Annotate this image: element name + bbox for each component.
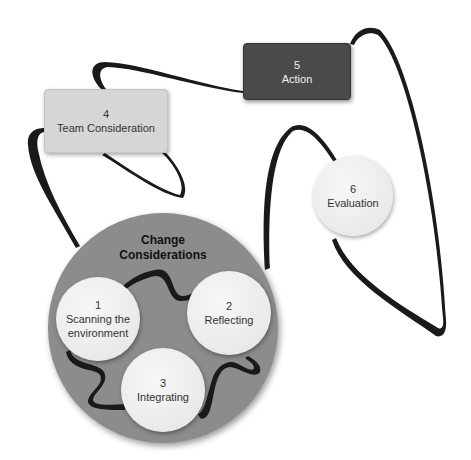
node-label: Scanning the bbox=[66, 312, 130, 326]
node-number: 1 bbox=[95, 298, 101, 312]
node-label-line2: environment bbox=[68, 326, 129, 340]
node-number: 6 bbox=[350, 182, 356, 196]
node-integrating[interactable]: 3 Integrating bbox=[121, 348, 205, 432]
group-title: Change Considerations bbox=[98, 233, 228, 263]
node-action[interactable]: 5 Action bbox=[243, 43, 351, 100]
node-label: Integrating bbox=[137, 390, 189, 404]
node-label: Action bbox=[282, 72, 313, 86]
node-number: 3 bbox=[160, 376, 166, 390]
node-scanning-environment[interactable]: 1 Scanning the environment bbox=[56, 277, 140, 361]
connector-2-to-3 bbox=[198, 356, 260, 419]
node-label: Team Consideration bbox=[57, 121, 155, 135]
node-number: 2 bbox=[226, 299, 232, 313]
node-reflecting[interactable]: 2 Reflecting bbox=[187, 271, 271, 355]
inner-connectors bbox=[0, 0, 471, 460]
node-team-consideration[interactable]: 4 Team Consideration bbox=[44, 89, 168, 153]
node-label: Reflecting bbox=[205, 313, 254, 327]
node-label: Evaluation bbox=[327, 196, 378, 210]
node-number: 5 bbox=[294, 58, 300, 72]
node-evaluation[interactable]: 6 Evaluation bbox=[313, 156, 393, 236]
node-number: 4 bbox=[103, 107, 109, 121]
